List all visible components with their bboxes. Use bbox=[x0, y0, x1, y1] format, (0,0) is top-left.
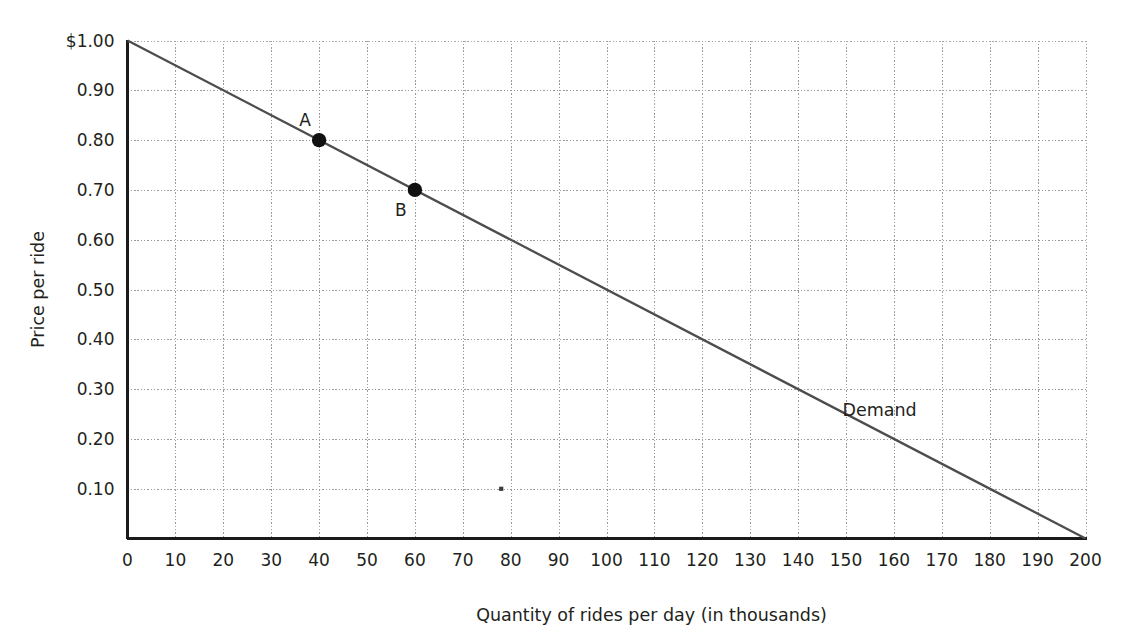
y-tick-label-0.1: 0.10 bbox=[77, 479, 115, 499]
demand-curve-chart: AB01020304050607080901001101201301401501… bbox=[0, 0, 1132, 639]
x-tick-label-90: 90 bbox=[548, 550, 570, 570]
y-tick-label-0.4: 0.40 bbox=[77, 329, 115, 349]
x-tick-label-200: 200 bbox=[1069, 550, 1101, 570]
x-tick-label-180: 180 bbox=[973, 550, 1005, 570]
x-tick-label-170: 170 bbox=[926, 550, 958, 570]
x-tick-label-110: 110 bbox=[638, 550, 670, 570]
x-tick-label-150: 150 bbox=[830, 550, 862, 570]
x-tick-label-70: 70 bbox=[452, 550, 474, 570]
y-tick-label-0.3: 0.30 bbox=[77, 379, 115, 399]
y-tick-label-0.6: 0.60 bbox=[77, 230, 115, 250]
point-label-a: A bbox=[299, 110, 311, 130]
x-tick-label-140: 140 bbox=[782, 550, 814, 570]
y-axis-title: Price per ride bbox=[28, 231, 48, 348]
x-tick-label-120: 120 bbox=[686, 550, 718, 570]
series-label-demand: Demand bbox=[842, 400, 916, 420]
x-axis-title: Quantity of rides per day (in thousands) bbox=[476, 605, 827, 625]
data-point-b[interactable] bbox=[408, 183, 422, 197]
x-tick-label-130: 130 bbox=[734, 550, 766, 570]
x-tick-label-60: 60 bbox=[404, 550, 426, 570]
x-tick-label-50: 50 bbox=[356, 550, 378, 570]
y-tick-label-0.5: 0.50 bbox=[77, 280, 115, 300]
x-tick-label-190: 190 bbox=[1021, 550, 1053, 570]
x-tick-label-20: 20 bbox=[212, 550, 234, 570]
chart-canvas: AB01020304050607080901001101201301401501… bbox=[0, 0, 1132, 639]
x-tick-label-80: 80 bbox=[500, 550, 522, 570]
data-point-a[interactable] bbox=[312, 133, 326, 147]
y-tick-label-0.7: 0.70 bbox=[77, 180, 115, 200]
y-tick-label-0.8: 0.80 bbox=[77, 130, 115, 150]
x-tick-label-160: 160 bbox=[878, 550, 910, 570]
x-tick-label-100: 100 bbox=[590, 550, 622, 570]
point-label-b: B bbox=[395, 200, 407, 220]
x-tick-label-10: 10 bbox=[165, 550, 187, 570]
x-tick-label-0: 0 bbox=[122, 550, 133, 570]
x-tick-label-30: 30 bbox=[260, 550, 282, 570]
x-tick-label-40: 40 bbox=[308, 550, 330, 570]
y-tick-label-0.2: 0.20 bbox=[77, 429, 115, 449]
scan-speck bbox=[499, 487, 503, 491]
y-tick-label-0.9: 0.90 bbox=[77, 80, 115, 100]
y-tick-label-1: $1.00 bbox=[66, 31, 115, 51]
